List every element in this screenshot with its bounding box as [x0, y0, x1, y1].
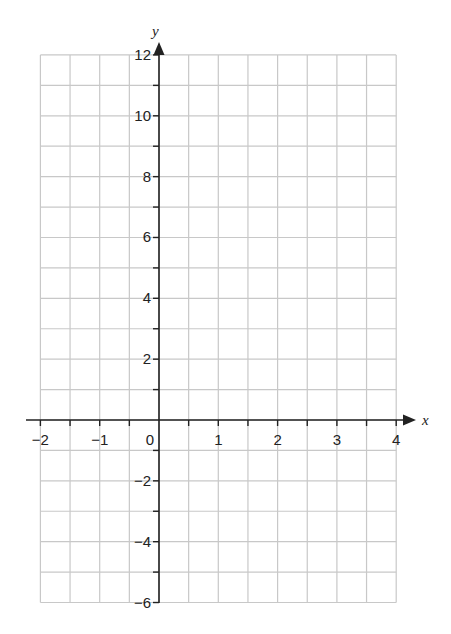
y-axis-label: y — [150, 23, 159, 39]
x-tick-label: −1 — [91, 431, 108, 448]
x-tick-label: 1 — [214, 431, 222, 448]
y-tick-label: −6 — [134, 594, 151, 611]
x-axis-label: x — [421, 412, 429, 428]
x-axis-arrow-icon — [403, 415, 416, 426]
coordinate-grid: −2−10123412108642−2−4−6 x y — [0, 0, 451, 634]
x-tick-label: −2 — [32, 431, 49, 448]
x-tick-label: 3 — [333, 431, 341, 448]
y-axis-arrow-icon — [154, 42, 165, 55]
x-tick-label: 2 — [273, 431, 281, 448]
y-tick-label: −2 — [134, 472, 151, 489]
x-tick-label: 4 — [392, 431, 400, 448]
y-tick-label: 2 — [143, 350, 151, 367]
x-tick-label: 0 — [146, 431, 154, 448]
y-tick-label: 8 — [143, 168, 151, 185]
y-tick-label: 12 — [134, 46, 151, 63]
axes — [26, 42, 416, 603]
y-tick-label: 10 — [134, 107, 151, 124]
y-tick-label: 4 — [143, 289, 151, 306]
y-tick-label: 6 — [143, 228, 151, 245]
y-tick-label: −4 — [134, 533, 151, 550]
grid-lines — [40, 55, 396, 603]
